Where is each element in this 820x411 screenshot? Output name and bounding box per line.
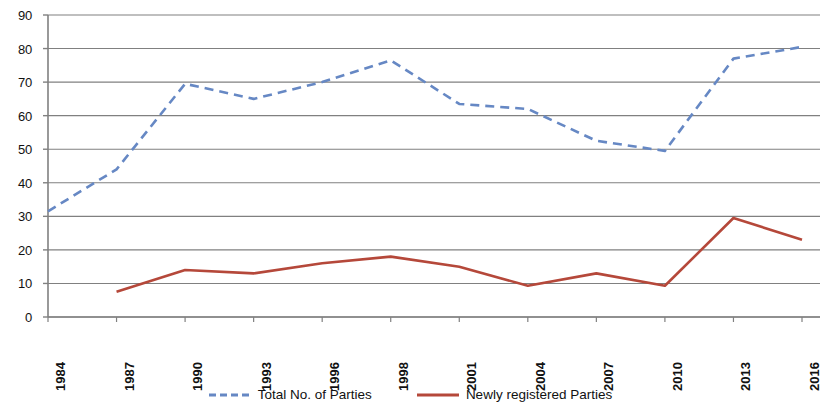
plot-area — [38, 15, 820, 317]
legend-label: Newly registered Parties — [466, 388, 612, 402]
x-axis: 1984198719901993199619982001200420072010… — [38, 322, 820, 384]
y-tick-label: 0 — [0, 311, 32, 324]
legend-solid-line-icon — [416, 390, 460, 400]
y-tick-label: 70 — [0, 76, 32, 89]
legend-entry[interactable]: Total No. of Parties — [208, 388, 372, 402]
x-tick-label: 1987 — [123, 362, 136, 391]
y-tick-label: 80 — [0, 43, 32, 56]
y-axis: 9080706050403020100 — [0, 0, 32, 332]
legend-entry[interactable]: Newly registered Parties — [416, 388, 612, 402]
x-tick-label: 1990 — [191, 362, 204, 391]
plot-svg — [38, 15, 820, 317]
legend-dashed-line-icon — [208, 390, 252, 400]
y-tick-label: 90 — [0, 9, 32, 22]
series-line-newly-registered — [117, 218, 802, 292]
x-tick-label: 2013 — [739, 362, 752, 391]
y-tick-label: 30 — [0, 210, 32, 223]
chart-container: 9080706050403020100 19841987199019931996… — [0, 0, 820, 411]
y-tick-label: 50 — [0, 143, 32, 156]
x-tick-label: 2016 — [808, 362, 820, 391]
y-tick-label: 60 — [0, 110, 32, 123]
series-line-total-parties — [48, 47, 802, 211]
x-tick-label: 1984 — [54, 362, 67, 391]
y-tick-label: 10 — [0, 277, 32, 290]
legend-label: Total No. of Parties — [258, 388, 372, 402]
y-tick-label: 40 — [0, 177, 32, 190]
x-tick-label: 1998 — [397, 362, 410, 391]
y-tick-label: 20 — [0, 244, 32, 257]
chart-legend: Total No. of PartiesNewly registered Par… — [0, 388, 820, 402]
x-tick-label: 2010 — [671, 362, 684, 391]
